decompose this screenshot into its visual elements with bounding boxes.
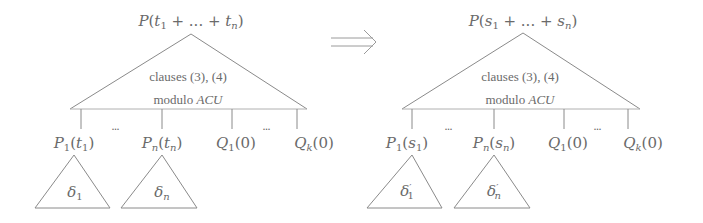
pred: Q	[294, 134, 306, 152]
left-child-pn: Pn(tn)	[142, 136, 183, 153]
pred-sub: n	[152, 142, 158, 153]
pred-sub: 1	[560, 142, 566, 153]
pred: P	[473, 134, 483, 152]
modulo-text: modulo	[154, 92, 197, 107]
right-clauses-label: clauses (3), (4)	[481, 70, 559, 83]
acu-text: ACU	[528, 92, 554, 107]
arg-sub: 1	[416, 142, 422, 153]
acu-text: ACU	[196, 92, 222, 107]
left-child-qk: Qk(0)	[294, 136, 334, 153]
pred-sub: k	[306, 142, 312, 153]
arg: s	[495, 134, 503, 152]
term-subscript: n	[565, 20, 571, 31]
arg: 0	[241, 134, 251, 152]
pred-sub: 1	[64, 142, 70, 153]
pred: Q	[548, 134, 560, 152]
arg-sub: 1	[82, 142, 88, 153]
pred: Q	[216, 134, 228, 152]
sum-operator: + ... +	[167, 12, 226, 30]
left-child-q1: Q1(0)	[216, 136, 256, 153]
right-subtree-delta1-prime-label: δ′1	[400, 183, 414, 201]
pred: P	[386, 134, 396, 152]
left-subtree-delta1-label: δ1	[67, 185, 82, 202]
term-symbol: s	[485, 12, 493, 30]
delta: δ	[67, 183, 76, 201]
right-child-qk: Qk(0)	[623, 136, 663, 153]
diagram-canvas	[0, 0, 703, 223]
root-predicate: P	[469, 12, 479, 30]
arg-sub: n	[503, 142, 509, 153]
pred-sub: 1	[228, 142, 234, 153]
delta-sub: 1	[76, 191, 82, 202]
arg: s	[408, 134, 416, 152]
right-ellipsis-q: ...	[593, 120, 601, 133]
pred: Q	[623, 134, 635, 152]
left-child-p1: P1(t1)	[54, 136, 95, 153]
pred-sub: n	[483, 142, 489, 153]
delta: δ	[154, 183, 163, 201]
root-predicate: P	[138, 12, 148, 30]
pred-sub: k	[635, 142, 641, 153]
term-subscript: n	[231, 20, 237, 31]
right-child-p1: P1(s1)	[386, 136, 428, 153]
left-ellipsis-q: ...	[262, 120, 270, 133]
left-root-formula: P(t1 + ... + tn)	[138, 14, 243, 31]
right-root-formula: P(s1 + ... + sn)	[469, 14, 578, 31]
delta-sub: 1	[407, 190, 413, 201]
right-child-pn: Pn(sn)	[473, 136, 515, 153]
left-subtree-deltan-label: δn	[154, 185, 169, 202]
right-ellipsis-p: ...	[444, 120, 452, 133]
implies-arrow-icon	[331, 30, 376, 54]
arg: 0	[647, 134, 657, 152]
right-modulo-label: modulo ACU	[486, 93, 555, 106]
left-modulo-label: modulo ACU	[154, 93, 223, 106]
left-ellipsis-p: ...	[111, 120, 119, 133]
right-child-q1: Q1(0)	[548, 136, 588, 153]
sum-operator: + ... +	[499, 12, 558, 30]
delta-sub: n	[163, 191, 169, 202]
right-subtree-deltan-prime-label: δ′n	[487, 183, 501, 201]
delta-sub: n	[494, 190, 500, 201]
pred-sub: 1	[396, 142, 402, 153]
modulo-text: modulo	[486, 92, 529, 107]
pred: P	[54, 134, 64, 152]
pred: P	[142, 134, 152, 152]
arg: 0	[318, 134, 328, 152]
left-clauses-label: clauses (3), (4)	[149, 70, 227, 83]
arg-sub: n	[170, 142, 176, 153]
arg: 0	[573, 134, 583, 152]
